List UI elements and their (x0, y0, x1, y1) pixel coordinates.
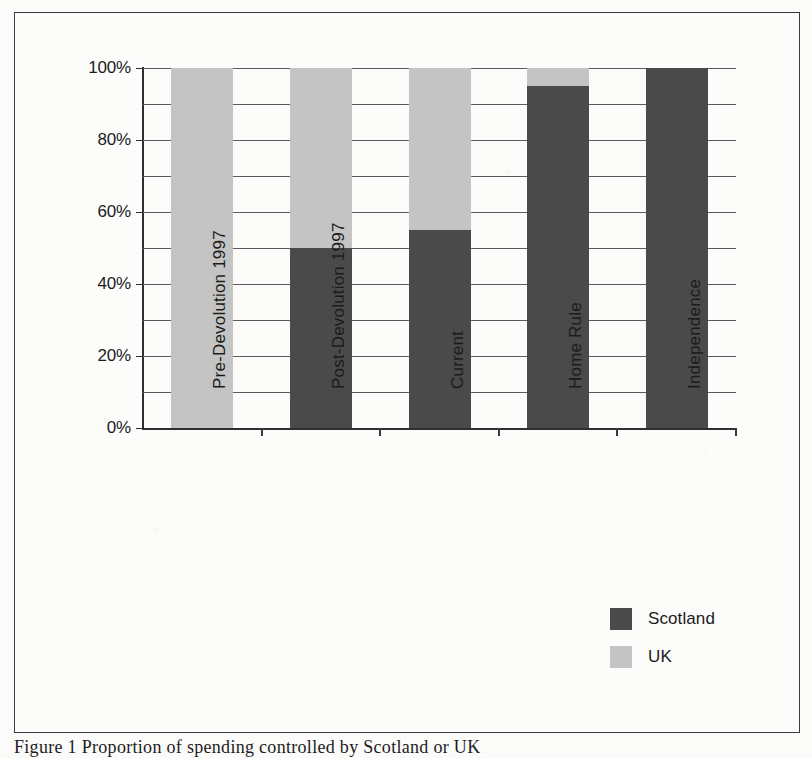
bar-segment-scotland[interactable] (409, 230, 471, 428)
x-axis-category-label: Independence (685, 279, 705, 389)
legend-item[interactable]: Scotland (610, 608, 715, 630)
x-axis-category-label: Pre-Devolution 1997 (210, 230, 230, 389)
x-axis-category-label: Current (448, 331, 468, 389)
y-axis-tick-label: 100% (88, 58, 131, 78)
y-axis-tick (136, 212, 143, 213)
bar-segment-uk[interactable] (409, 68, 471, 230)
y-axis-tick (136, 140, 143, 141)
legend-label: Scotland (648, 609, 715, 629)
bar-segment-uk[interactable] (527, 68, 589, 86)
x-axis-tick (261, 428, 263, 436)
x-axis-tick (735, 428, 737, 436)
legend-label: UK (648, 647, 672, 667)
x-axis-line (142, 428, 737, 430)
y-axis-tick-label: 60% (98, 202, 131, 222)
legend-swatch (610, 608, 632, 630)
figure-frame: 0%20%40%60%80%100% Pre-Devolution 1997Po… (14, 12, 800, 733)
chart-plot-area: 0%20%40%60%80%100% (143, 68, 736, 428)
legend-swatch (610, 646, 632, 668)
bar-series (143, 68, 736, 428)
legend-item[interactable]: UK (610, 646, 715, 668)
x-axis-tick (616, 428, 618, 436)
y-axis-tick-label: 0% (107, 418, 131, 438)
y-axis-tick (136, 284, 143, 285)
y-axis-tick-label: 20% (98, 346, 131, 366)
y-axis-tick (136, 68, 143, 69)
x-axis-tick (379, 428, 381, 436)
y-axis-tick (136, 428, 143, 429)
x-axis-tick (498, 428, 500, 436)
x-axis-category-label: Home Rule (566, 302, 586, 389)
x-axis-category-label: Post-Devolution 1997 (329, 222, 349, 389)
bar-segment-uk[interactable] (290, 68, 352, 248)
y-axis-tick-label: 80% (98, 130, 131, 150)
chart-legend: ScotlandUK (610, 608, 715, 684)
y-axis-tick-label: 40% (98, 274, 131, 294)
figure-caption: Figure 1 Proportion of spending controll… (14, 737, 480, 758)
y-axis-tick (136, 356, 143, 357)
